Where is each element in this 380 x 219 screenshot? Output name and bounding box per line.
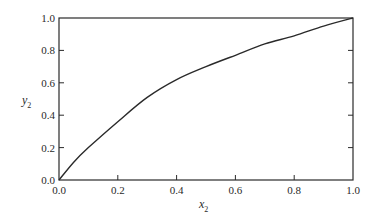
y-axis-ticks: 0.00.20.40.60.81.0 (41, 12, 353, 186)
x-axis-label: x2 (198, 197, 208, 214)
y-tick-label: 0.4 (41, 109, 55, 121)
x-tick-label: 1.0 (346, 184, 360, 196)
x-tick-label: 0.8 (287, 184, 301, 196)
y-tick-label: 0.0 (41, 174, 55, 186)
x-axis-ticks: 0.00.20.40.60.81.0 (52, 175, 360, 196)
plot-frame (59, 18, 353, 180)
plot-border (59, 18, 353, 180)
y-tick-label: 0.8 (41, 44, 55, 56)
y-tick-label: 0.2 (41, 142, 55, 154)
y-axis-label: y2 (21, 93, 31, 110)
equilibrium-curve-chart: 0.00.20.40.60.81.0 0.00.20.40.60.81.0 y2… (0, 0, 380, 219)
y-tick-label: 1.0 (41, 12, 55, 24)
x-tick-label: 0.4 (170, 184, 184, 196)
y-tick-label: 0.6 (41, 77, 55, 89)
x-tick-label: 0.6 (229, 184, 243, 196)
data-curve (59, 18, 353, 180)
x-tick-label: 0.2 (111, 184, 125, 196)
